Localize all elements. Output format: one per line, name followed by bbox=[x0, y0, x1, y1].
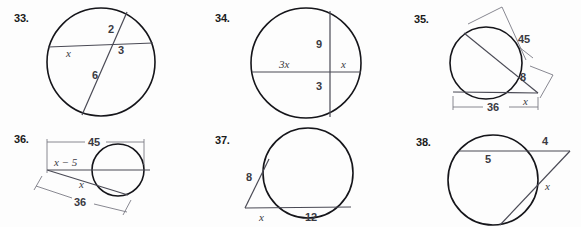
dim-36-36-tick-right bbox=[123, 200, 131, 215]
problem-37-figure: 8 x 12 bbox=[195, 118, 390, 227]
problem-33-label-3: 3 bbox=[118, 44, 124, 56]
problem-38-figure: 5 4 x bbox=[390, 118, 581, 227]
chord-33-diagonal bbox=[82, 12, 127, 115]
worksheet-page: 33. 2 3 x 6 34. 9 3x x 3 35. bbox=[0, 0, 581, 227]
problem-33: 33. 2 3 x 6 bbox=[0, 0, 195, 120]
circle-33 bbox=[47, 8, 155, 116]
problem-35-figure: 45 8 x 36 bbox=[390, 0, 581, 120]
chord-33-horizontal bbox=[48, 43, 153, 47]
problem-34-figure: 9 3x x 3 bbox=[195, 0, 390, 120]
problem-34-label-9: 9 bbox=[316, 38, 322, 50]
problem-38: 38. 5 4 x bbox=[390, 118, 581, 227]
secant-36-diagonal bbox=[47, 170, 128, 195]
problem-36-figure: 45 x − 5 x 36 bbox=[0, 118, 195, 227]
problem-36: 36. 45 x − 5 x 36 bbox=[0, 118, 195, 227]
problem-36-label-x: x bbox=[78, 178, 84, 190]
problem-33-figure: 2 3 x 6 bbox=[0, 0, 195, 120]
dim-36-36-line-right bbox=[94, 204, 127, 212]
tangent-37 bbox=[245, 159, 269, 208]
dim-35-45-tick-a bbox=[468, 7, 502, 24]
dim-36-36-line-left bbox=[36, 186, 72, 198]
problem-38-label-5: 5 bbox=[485, 153, 491, 165]
problem-34: 34. 9 3x x 3 bbox=[195, 0, 390, 120]
secant-37-horizontal bbox=[245, 207, 351, 208]
problem-37-label-8: 8 bbox=[246, 171, 252, 183]
problem-33-label-2: 2 bbox=[108, 23, 114, 35]
problem-35: 35. 45 8 x 36 bbox=[390, 0, 581, 120]
problem-37-label-12: 12 bbox=[305, 211, 317, 223]
problem-33-label-x: x bbox=[65, 47, 71, 59]
problem-34-label-3x: 3x bbox=[278, 58, 290, 70]
circle-37 bbox=[263, 128, 353, 218]
circle-38 bbox=[448, 135, 538, 225]
dim-35-arm-b bbox=[540, 75, 553, 98]
problem-38-label-4: 4 bbox=[542, 135, 549, 147]
problem-37: 37. 8 x 12 bbox=[195, 118, 390, 227]
problem-38-label-x: x bbox=[544, 180, 550, 192]
problem-33-label-6: 6 bbox=[92, 69, 98, 81]
problem-35-label-36: 36 bbox=[487, 101, 499, 113]
problem-34-label-3: 3 bbox=[316, 80, 322, 92]
problem-36-label-36: 36 bbox=[74, 196, 86, 208]
problem-36-label-x-minus-5: x − 5 bbox=[53, 156, 78, 168]
problem-35-label-8: 8 bbox=[520, 71, 526, 83]
problem-36-label-45: 45 bbox=[88, 136, 100, 148]
circle-35 bbox=[450, 27, 522, 99]
problem-35-label-45: 45 bbox=[518, 33, 530, 45]
problem-34-label-x: x bbox=[340, 58, 346, 70]
problem-35-label-x: x bbox=[522, 95, 528, 107]
problem-37-label-x: x bbox=[258, 211, 264, 223]
dim-35-arm-a bbox=[530, 66, 553, 75]
